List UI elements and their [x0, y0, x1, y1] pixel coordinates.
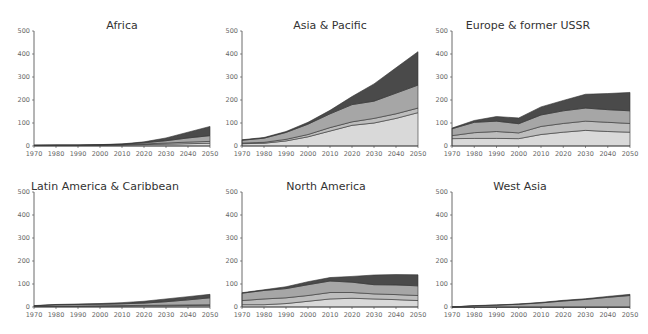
x-tick-label: 2050 — [202, 150, 219, 158]
x-tick-label: 2000 — [92, 150, 109, 158]
x-tick-label: 2050 — [410, 311, 427, 319]
x-tick-label: 2030 — [366, 150, 383, 158]
panel-europe-former-ussr: 0100200300400500197019801990200020102020… — [436, 19, 639, 158]
x-tick-label: 2050 — [202, 311, 219, 319]
x-tick-label: 2030 — [366, 311, 383, 319]
x-tick-label: 2000 — [300, 150, 317, 158]
y-tick-label: 500 — [226, 27, 238, 35]
x-tick-label: 2040 — [388, 311, 405, 319]
x-tick-label: 2040 — [180, 311, 197, 319]
y-tick-label: 100 — [436, 119, 448, 127]
small-multiples-area-charts: 0100200300400500197019801990200020102020… — [0, 0, 648, 334]
y-tick-label: 0 — [26, 303, 30, 311]
x-tick-label: 1970 — [234, 150, 251, 158]
x-tick-label: 1980 — [48, 311, 65, 319]
x-tick-label: 2050 — [410, 150, 427, 158]
chart-figure: 0100200300400500197019801990200020102020… — [0, 0, 648, 334]
x-tick-label: 2020 — [136, 150, 153, 158]
x-tick-label: 1980 — [256, 311, 273, 319]
y-tick-label: 500 — [436, 27, 448, 35]
x-tick-label: 2000 — [300, 311, 317, 319]
x-tick-label: 1990 — [278, 311, 295, 319]
x-tick-label: 1990 — [488, 150, 505, 158]
y-tick-label: 500 — [18, 188, 30, 196]
x-tick-label: 1970 — [26, 150, 43, 158]
x-tick-label: 1990 — [70, 150, 87, 158]
y-tick-label: 300 — [436, 234, 448, 242]
x-tick-label: 2010 — [322, 311, 339, 319]
panel-title: Asia & Pacific — [293, 19, 367, 32]
y-tick-label: 400 — [18, 50, 30, 58]
panel-title: Latin America & Caribbean — [31, 180, 179, 193]
y-tick-label: 200 — [226, 257, 238, 265]
x-tick-label: 1990 — [70, 311, 87, 319]
y-tick-label: 400 — [436, 50, 448, 58]
panel-title: West Asia — [493, 180, 547, 193]
panel-title: North America — [286, 180, 366, 193]
x-tick-label: 2010 — [114, 150, 131, 158]
x-tick-label: 1980 — [48, 150, 65, 158]
panel-west-asia: 0100200300400500197019801990200020102020… — [436, 180, 639, 319]
y-tick-label: 300 — [18, 73, 30, 81]
x-tick-label: 2020 — [344, 150, 361, 158]
y-tick-label: 400 — [436, 211, 448, 219]
x-tick-label: 2040 — [180, 150, 197, 158]
x-tick-label: 2000 — [510, 150, 527, 158]
x-tick-label: 2040 — [599, 150, 616, 158]
x-tick-label: 1970 — [444, 150, 461, 158]
panel-title: Africa — [106, 19, 137, 32]
x-tick-label: 2040 — [599, 311, 616, 319]
panel-latin-america-caribbean: 0100200300400500197019801990200020102020… — [18, 180, 219, 319]
x-tick-label: 1970 — [26, 311, 43, 319]
panel-north-america: 0100200300400500197019801990200020102020… — [226, 180, 427, 319]
x-tick-label: 1990 — [488, 311, 505, 319]
y-tick-label: 300 — [436, 73, 448, 81]
y-tick-label: 300 — [226, 234, 238, 242]
y-tick-label: 0 — [234, 303, 238, 311]
x-tick-label: 2020 — [555, 150, 572, 158]
x-tick-label: 1970 — [234, 311, 251, 319]
y-tick-label: 0 — [26, 142, 30, 150]
x-tick-label: 2030 — [577, 150, 594, 158]
x-tick-label: 2030 — [577, 311, 594, 319]
x-tick-label: 2020 — [555, 311, 572, 319]
y-tick-label: 200 — [18, 96, 30, 104]
y-tick-label: 500 — [226, 188, 238, 196]
y-tick-label: 0 — [234, 142, 238, 150]
x-tick-label: 1990 — [278, 150, 295, 158]
x-tick-label: 2050 — [622, 150, 639, 158]
panel-title: Europe & former USSR — [466, 19, 591, 32]
y-tick-label: 400 — [226, 50, 238, 58]
y-tick-label: 300 — [18, 234, 30, 242]
x-tick-label: 2000 — [510, 311, 527, 319]
x-tick-label: 2050 — [622, 311, 639, 319]
x-tick-label: 2010 — [114, 311, 131, 319]
y-tick-label: 0 — [444, 142, 448, 150]
x-tick-label: 2010 — [322, 150, 339, 158]
y-tick-label: 200 — [18, 257, 30, 265]
y-tick-label: 200 — [436, 96, 448, 104]
y-tick-label: 100 — [226, 119, 238, 127]
y-tick-label: 500 — [436, 188, 448, 196]
y-tick-label: 100 — [18, 280, 30, 288]
x-tick-label: 2020 — [344, 311, 361, 319]
x-tick-label: 2000 — [92, 311, 109, 319]
y-tick-label: 100 — [18, 119, 30, 127]
x-tick-label: 1980 — [256, 150, 273, 158]
x-tick-label: 2020 — [136, 311, 153, 319]
x-tick-label: 2030 — [158, 150, 175, 158]
y-tick-label: 500 — [18, 27, 30, 35]
y-tick-label: 300 — [226, 73, 238, 81]
y-tick-label: 0 — [444, 303, 448, 311]
y-tick-label: 400 — [226, 211, 238, 219]
x-tick-label: 1980 — [466, 311, 483, 319]
x-tick-label: 1980 — [466, 150, 483, 158]
panel-africa: 0100200300400500197019801990200020102020… — [18, 19, 219, 158]
x-tick-label: 1970 — [444, 311, 461, 319]
y-tick-label: 200 — [226, 96, 238, 104]
x-tick-label: 2010 — [533, 311, 550, 319]
y-tick-label: 100 — [226, 280, 238, 288]
y-tick-label: 400 — [18, 211, 30, 219]
y-tick-label: 200 — [436, 257, 448, 265]
y-tick-label: 100 — [436, 280, 448, 288]
